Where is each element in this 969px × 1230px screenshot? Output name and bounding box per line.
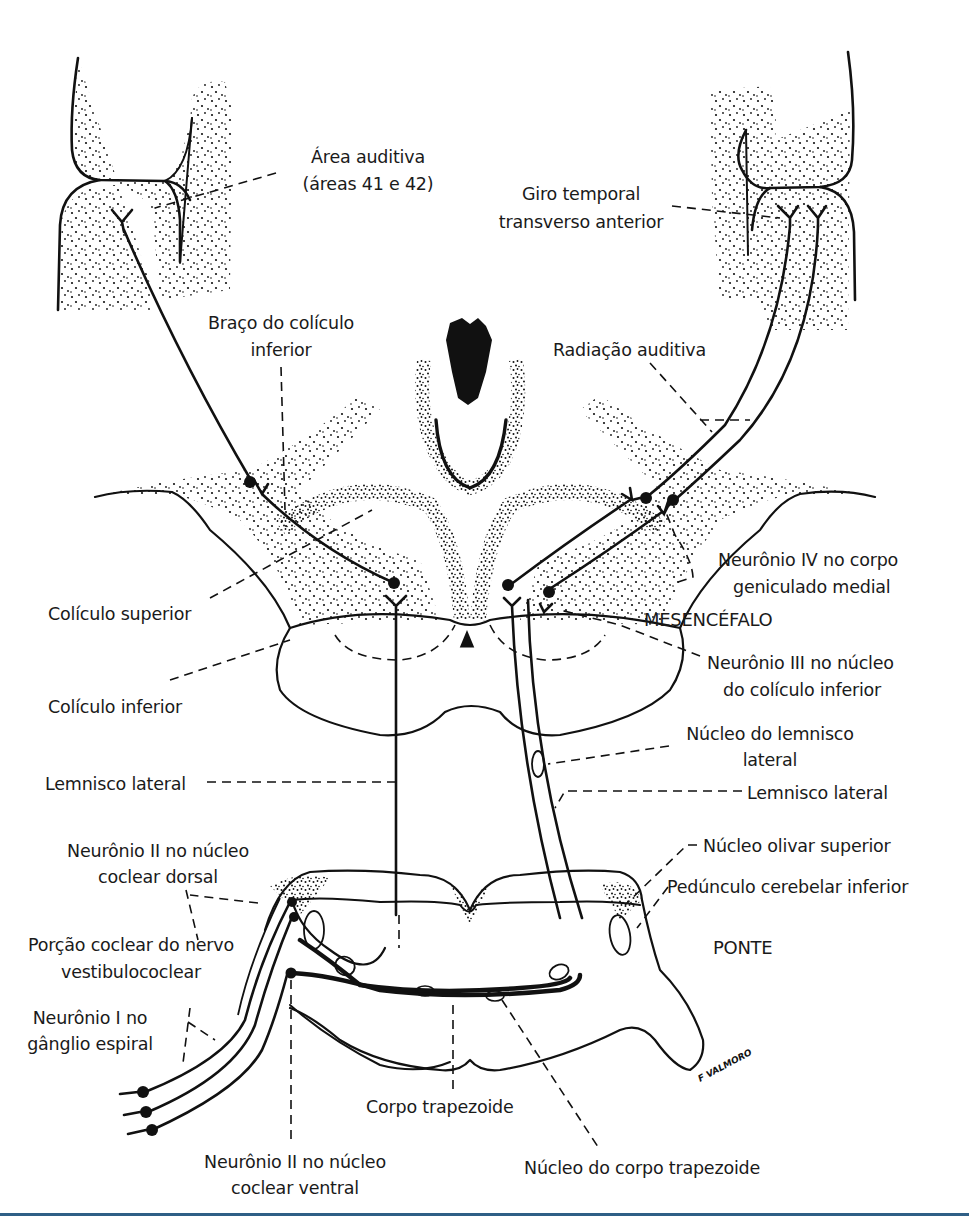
label-neuron-iv: Neurônio IV no corpo [718,550,898,570]
label-cochlear-nerve: Porção coclear do nervo [28,935,234,955]
label-neuron-ii-dorsal-sub: coclear dorsal [98,867,218,887]
label-neuron-iv-sub: geniculado medial [733,577,890,597]
label-neuron-iii: Neurônio III no núcleo [707,653,894,673]
label-neuron-i-sub: gânglio espiral [27,1034,153,1054]
label-cochlear-nerve-sub: vestibulococlear [61,962,202,982]
bottom-rule [0,1213,969,1216]
label-auditory-radiation: Radiação auditiva [553,340,706,360]
label-lateral-lemniscus-right: Lemnisco lateral [747,783,888,803]
label-neuron-iii-sub: do colículo inferior [723,680,882,700]
artist-signature: F VALMORO [696,1047,754,1084]
label-brachium: Braço do colículo [208,313,354,333]
auditory-pathway-diagram: Área auditiva (áreas 41 e 42) Giro tempo… [0,0,969,1230]
label-inferior-cerebellar-peduncle: Pedúnculo cerebelar inferior [667,877,909,897]
label-nucleus-lateral-lemniscus-sub: lateral [743,750,798,770]
label-transverse-gyrus-sub: transverso anterior [499,212,664,232]
left-cortex [58,58,252,482]
label-trapezoid-body: Corpo trapezoide [366,1097,514,1117]
label-brachium-sub: inferior [250,340,312,360]
label-trapezoid-nucleus: Núcleo do corpo trapezoide [524,1158,760,1178]
label-transverse-gyrus: Giro temporal [522,184,640,204]
right-cortex [648,52,855,506]
label-auditory-area: Área auditiva [311,146,425,167]
neurons-inferior-colliculus [386,579,582,918]
pons [265,871,703,1071]
label-neuron-ii-ventral-sub: coclear ventral [231,1178,359,1198]
label-neuron-ii-dorsal: Neurônio II no núcleo [67,841,249,861]
label-neuron-i: Neurônio I no [33,1008,148,1028]
label-lateral-lemniscus-left: Lemnisco lateral [45,774,186,794]
label-neuron-ii-ventral: Neurônio II no núcleo [204,1152,386,1172]
label-superior-olivary: Núcleo olivar superior [703,836,892,856]
label-superior-colliculus: Colículo superior [48,604,192,624]
label-nucleus-lateral-lemniscus: Núcleo do lemnisco [686,724,854,744]
region-pons: PONTE [713,937,772,958]
label-inferior-colliculus: Colículo inferior [48,697,183,717]
region-mesencephalon: MESENCÉFALO [644,609,773,630]
label-auditory-area-sub: (áreas 41 e 42) [303,174,434,194]
